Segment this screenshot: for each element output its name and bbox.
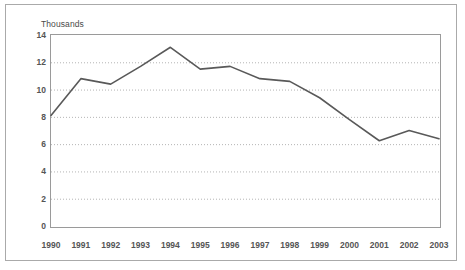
y-tick-label: 6 [20, 139, 46, 149]
plot-area [50, 34, 441, 228]
x-tick-label: 1990 [42, 240, 61, 250]
y-tick-label: 14 [20, 30, 46, 40]
y-tick-label: 12 [20, 57, 46, 67]
series-line [51, 47, 439, 140]
x-tick-label: 2001 [370, 240, 389, 250]
x-tick-label: 1996 [221, 240, 240, 250]
x-tick-label: 2002 [400, 240, 419, 250]
data-series-line [51, 35, 440, 227]
x-tick-label: 1993 [131, 240, 150, 250]
y-tick-label: 8 [20, 112, 46, 122]
x-tick-label: 1998 [280, 240, 299, 250]
x-tick-label: 2003 [430, 240, 449, 250]
figure-frame: Thousands 02468101214 199019911992199319… [5, 4, 457, 261]
x-tick-label: 1992 [101, 240, 120, 250]
x-tick-label: 2000 [340, 240, 359, 250]
y-tick-label: 10 [20, 85, 46, 95]
x-tick-label: 1999 [310, 240, 329, 250]
x-tick-label: 1995 [191, 240, 210, 250]
x-tick-label: 1997 [250, 240, 269, 250]
x-tick-label: 1994 [161, 240, 180, 250]
y-tick-label: 2 [20, 194, 46, 204]
y-tick-label: 0 [20, 221, 46, 231]
line-chart: Thousands 02468101214 199019911992199319… [6, 5, 456, 260]
y-tick-label: 4 [20, 166, 46, 176]
x-tick-label: 1991 [71, 240, 90, 250]
y-axis-caption: Thousands [41, 19, 84, 29]
y-axis-tick-labels: 02468101214 [16, 34, 46, 228]
x-axis-tick-labels: 1990199119921993199419951996199719981999… [50, 240, 441, 256]
